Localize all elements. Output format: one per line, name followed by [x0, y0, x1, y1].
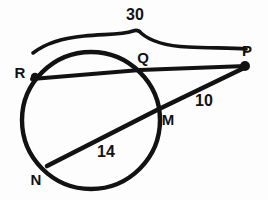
measure-label-rp: 30	[126, 7, 144, 23]
point-label-m: M	[162, 112, 175, 127]
point-dot-r	[31, 73, 39, 81]
point-dot-p	[240, 61, 250, 71]
measure-label-mp: 10	[195, 93, 213, 109]
point-label-n: N	[31, 172, 42, 187]
point-label-r: R	[15, 65, 26, 80]
point-label-p: P	[242, 43, 252, 58]
point-label-q: Q	[137, 50, 149, 65]
geometry-figure: R Q P M N 30 10 14	[0, 0, 268, 200]
measure-label-nm: 14	[97, 144, 115, 160]
